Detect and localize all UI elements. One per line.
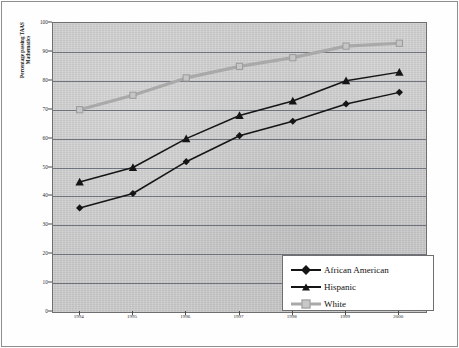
y-tick-label: 90 [26,48,48,54]
legend-diamond-icon [291,264,321,276]
data-point-diamond [396,89,403,96]
y-axis-title: Percentage passing TAAS Mathematics [19,0,32,110]
legend-label: White [324,299,346,309]
data-point-diamond [183,158,190,165]
series-line [80,43,400,109]
y-tick-mark [48,224,52,225]
x-tick-mark [239,311,240,315]
y-tick-mark [48,108,52,109]
series-african-american [76,89,403,212]
series-hispanic [75,68,403,186]
y-tick-mark [48,282,52,283]
data-point-square [290,55,296,61]
data-point-triangle [395,68,403,76]
series-line [80,72,400,182]
legend-triangle-icon [291,281,321,293]
y-tick-label: 80 [26,77,48,83]
y-tick-label: 30 [26,221,48,227]
y-tick-mark [48,22,52,23]
data-point-square [77,107,83,113]
data-point-diamond [129,190,136,197]
y-tick-label: 60 [26,135,48,141]
y-tick-mark [48,50,52,51]
data-point-diamond [289,118,296,125]
legend-label: African American [324,265,389,275]
y-tick-label: 40 [26,192,48,198]
y-tick-label: 50 [26,164,48,170]
data-point-diamond [76,204,83,211]
legend-label: Hispanic [324,282,356,292]
y-tick-label: 10 [26,279,48,285]
data-point-triangle [182,134,190,142]
y-tick-mark [48,79,52,80]
y-tick-label: 100 [26,19,48,25]
data-point-square [396,40,402,46]
legend-square-icon [291,298,321,310]
y-tick-mark [48,195,52,196]
legend-item-white: White [291,295,433,312]
y-tick-mark [48,311,52,312]
x-tick-mark [132,311,133,315]
data-point-diamond [342,100,349,107]
data-point-square [236,63,242,69]
y-tick-label: 70 [26,106,48,112]
y-tick-mark [48,166,52,167]
data-point-triangle [129,163,137,171]
chart-legend: African American Hispanic White [282,255,434,311]
x-tick-mark [79,311,80,315]
series-line [80,92,400,208]
data-point-square [183,75,189,81]
x-tick-mark [185,311,186,315]
legend-item-hispanic: Hispanic [291,278,433,295]
y-tick-mark [48,137,52,138]
legend-item-african-american: African American [291,261,433,278]
data-point-square [130,92,136,98]
chart-figure: Percentage passing TAAS Mathematics 0102… [0,0,459,348]
y-tick-label: 20 [26,250,48,256]
y-tick-mark [48,253,52,254]
data-point-diamond [236,132,243,139]
y-tick-label: 0 [26,308,48,314]
data-point-square [343,43,349,49]
